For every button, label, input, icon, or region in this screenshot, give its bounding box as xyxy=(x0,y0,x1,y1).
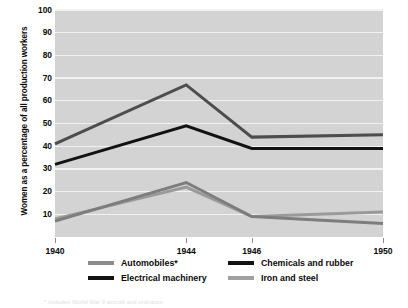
x-tick-mark xyxy=(252,238,253,243)
y-tick-label: 90 xyxy=(28,28,52,37)
x-tick-mark xyxy=(186,238,187,243)
legend-item[interactable]: Chemicals and rubber xyxy=(228,258,353,268)
legend-label: Iron and steel xyxy=(261,273,318,283)
x-tick-label: 1950 xyxy=(373,246,392,256)
legend-label: Automobiles* xyxy=(121,258,178,268)
y-tick-label: 70 xyxy=(28,74,52,83)
x-tick-mark xyxy=(55,238,56,243)
series-line xyxy=(55,126,383,165)
legend-item[interactable]: Iron and steel xyxy=(228,273,318,283)
y-tick-label: 100 xyxy=(28,6,52,15)
x-tick-mark xyxy=(383,238,384,243)
y-tick-label: 60 xyxy=(28,96,52,105)
series-layer xyxy=(55,10,383,237)
legend-swatch-icon xyxy=(228,261,254,264)
legend-swatch-icon xyxy=(228,276,254,279)
legend-item[interactable]: Electrical machinery xyxy=(88,273,207,283)
y-tick-label: 20 xyxy=(28,187,52,196)
legend-swatch-icon xyxy=(88,261,114,264)
x-axis-tick-labels: 1940194419461950 xyxy=(0,243,408,257)
series-line xyxy=(55,187,383,219)
x-tick-label: 1940 xyxy=(45,246,64,256)
legend-label: Electrical machinery xyxy=(121,273,207,283)
legend-label: Chemicals and rubber xyxy=(261,258,353,268)
chart-footnote: * Includes World War II aircraft and ord… xyxy=(44,299,294,305)
y-tick-label: 40 xyxy=(28,142,52,151)
legend-item[interactable]: Automobiles* xyxy=(88,258,178,268)
x-tick-label: 1944 xyxy=(177,246,196,256)
y-axis-tick-labels: 102030405060708090100 xyxy=(26,0,52,240)
plot-area xyxy=(55,10,383,237)
y-tick-label: 50 xyxy=(28,119,52,128)
y-tick-label: 80 xyxy=(28,51,52,60)
y-tick-label: 30 xyxy=(28,164,52,173)
chart-legend: Automobiles*Electrical machineryChemical… xyxy=(0,258,408,292)
legend-swatch-icon xyxy=(88,276,114,279)
y-tick-label: 10 xyxy=(28,210,52,219)
x-tick-label: 1946 xyxy=(242,246,261,256)
line-chart: Women as a percentage of all production … xyxy=(0,0,408,308)
series-line xyxy=(55,85,383,144)
